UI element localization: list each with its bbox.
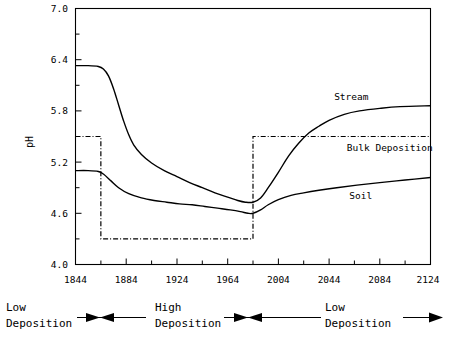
x-tick-label-1844: 1844 xyxy=(64,274,87,285)
x-tick-label-1964: 1964 xyxy=(216,274,239,285)
x-tick-label-1924: 1924 xyxy=(166,274,189,285)
y-tick-label-5-8: 5.8 xyxy=(51,105,68,116)
y-tick-label-5-2: 5.2 xyxy=(51,157,68,168)
ph-deposition-figure: 4.0 4.6 5.2 5.8 6.4 7.0 pH xyxy=(0,0,451,343)
x-tick-label-2004: 2004 xyxy=(267,274,290,285)
period-low-right-line2: Deposition xyxy=(325,317,391,330)
x-tick-label-1884: 1884 xyxy=(115,274,138,285)
x-tick-label-2084: 2084 xyxy=(368,274,391,285)
period-high-line1: High xyxy=(155,301,182,314)
series-label-stream: Stream xyxy=(334,91,369,102)
y-tick-label-7-0: 7.0 xyxy=(51,3,68,14)
period-high-line2: Deposition xyxy=(155,317,221,330)
period-low-right-line1: Low xyxy=(325,301,345,314)
period-low-left-line1: Low xyxy=(6,301,26,314)
x-tick-label-2044: 2044 xyxy=(318,274,341,285)
series-label-soil: Soil xyxy=(349,190,372,201)
series-label-bulk-deposition: Bulk Deposition xyxy=(347,142,433,153)
ph-time-series-chart: 4.0 4.6 5.2 5.8 6.4 7.0 pH xyxy=(0,0,451,343)
period-low-left-line2: Deposition xyxy=(6,317,72,330)
x-tick-label-2124: 2124 xyxy=(417,274,440,285)
y-tick-label-6-4: 6.4 xyxy=(51,54,68,65)
y-axis-title: pH xyxy=(24,136,35,148)
figure-background xyxy=(0,0,451,343)
y-tick-label-4-6: 4.6 xyxy=(51,208,68,219)
y-tick-label-4-0: 4.0 xyxy=(51,259,68,270)
